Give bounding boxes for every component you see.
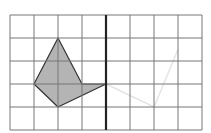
faint-trace bbox=[106, 50, 178, 108]
shaded-quadrilateral-shape bbox=[34, 38, 106, 107]
grid-canvas bbox=[0, 0, 211, 133]
reflection-grid-diagram bbox=[0, 0, 211, 133]
faint-trace-line bbox=[106, 50, 178, 108]
shaded-shape bbox=[34, 38, 106, 107]
